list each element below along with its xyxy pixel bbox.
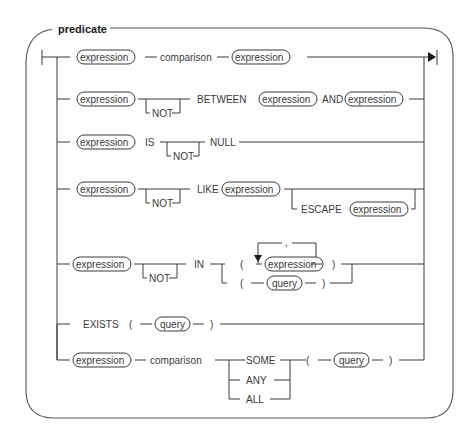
expression-node: expression bbox=[76, 355, 124, 366]
close-paren: ) bbox=[210, 319, 213, 330]
open-paren: ( bbox=[240, 278, 244, 289]
expression-node: expression bbox=[76, 259, 124, 270]
query-node: query bbox=[339, 355, 364, 366]
is-keyword: IS bbox=[145, 137, 155, 148]
exists-keyword: EXISTS bbox=[83, 319, 119, 330]
between-keyword: BETWEEN bbox=[197, 94, 246, 105]
comma-separator: , bbox=[285, 237, 288, 248]
expression-node: expression bbox=[262, 94, 310, 105]
close-paren: ) bbox=[332, 259, 335, 270]
row-between: expression NOT BETWEEN expression AND ex… bbox=[57, 92, 424, 119]
expression-node: expression bbox=[80, 52, 128, 63]
open-paren: ( bbox=[240, 259, 244, 270]
query-node: query bbox=[160, 319, 185, 330]
not-keyword: NOT bbox=[152, 108, 173, 119]
like-keyword: LIKE bbox=[197, 184, 219, 195]
all-keyword: ALL bbox=[246, 394, 264, 405]
expression-node: expression bbox=[235, 52, 283, 63]
in-keyword: IN bbox=[194, 259, 204, 270]
comparison-label: comparison bbox=[150, 355, 202, 366]
and-keyword: AND bbox=[322, 94, 343, 105]
close-paren: ) bbox=[389, 355, 392, 366]
not-keyword: NOT bbox=[152, 198, 173, 209]
close-paren: ) bbox=[322, 278, 325, 289]
expression-node: expression bbox=[80, 184, 128, 195]
expression-node: expression bbox=[348, 94, 396, 105]
expression-node: expression bbox=[80, 137, 128, 148]
some-keyword: SOME bbox=[246, 355, 276, 366]
syntax-diagram: predicate expression comparison expressi… bbox=[0, 0, 475, 447]
loop-arrow-icon bbox=[254, 255, 262, 262]
open-paren: ( bbox=[129, 319, 133, 330]
diagram-title: predicate bbox=[58, 23, 107, 35]
row-like: expression NOT LIKE expression ESCAPE ex… bbox=[57, 182, 424, 216]
end-arrow-icon bbox=[428, 52, 436, 62]
expression-node: expression bbox=[225, 184, 273, 195]
not-keyword: NOT bbox=[149, 273, 170, 284]
row-exists: EXISTS ( query ) bbox=[57, 317, 424, 331]
row-comparison: expression comparison expression bbox=[77, 50, 424, 64]
row-in: expression NOT IN ( , expression ) ( que… bbox=[57, 237, 424, 290]
escape-keyword: ESCAPE bbox=[301, 204, 342, 215]
null-keyword: NULL bbox=[210, 137, 236, 148]
row-quantified: expression comparison SOME ANY ALL ( que… bbox=[57, 324, 424, 405]
row-is-null: expression IS NOT NULL bbox=[57, 135, 424, 162]
expression-node: expression bbox=[80, 94, 128, 105]
query-node: query bbox=[272, 278, 297, 289]
any-keyword: ANY bbox=[246, 375, 267, 386]
not-keyword: NOT bbox=[173, 151, 194, 162]
expression-node: expression bbox=[353, 204, 401, 215]
open-paren: ( bbox=[306, 355, 310, 366]
expression-node: expression bbox=[268, 259, 316, 270]
comparison-label: comparison bbox=[160, 52, 212, 63]
